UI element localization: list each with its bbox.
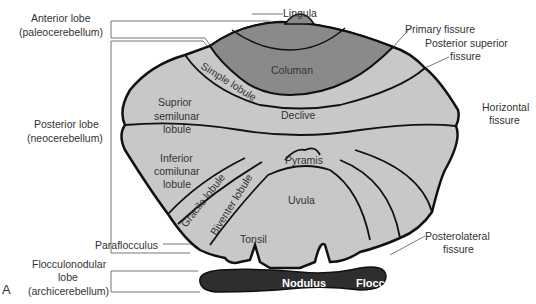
label-superior-semilunar-2: semilunar	[154, 110, 200, 122]
label-flocculonodular: Flocculonodular	[32, 258, 107, 270]
label-paraflocculus: Paraflocculus	[95, 239, 158, 251]
label-posterior-lobe: Posterior lobe	[34, 118, 99, 130]
label-superior-semilunar-3: lobule	[163, 123, 191, 135]
label-tonsil: Tonsil	[240, 233, 267, 245]
label-columan: Columan	[271, 64, 313, 76]
label-uvula: Uvula	[288, 194, 315, 206]
label-neocerebellum: (neocerebellum)	[27, 132, 103, 144]
label-horizontal-fissure-2: fissure	[489, 114, 520, 126]
label-superior-semilunar-1: Suprior	[158, 96, 192, 108]
label-primary-fissure: Primary fissure	[405, 23, 475, 35]
label-lingula: Lingula	[283, 7, 317, 19]
label-paleocerebellum: (paleocerebellum)	[19, 26, 103, 38]
label-archicerebellum: (archicerebellum)	[28, 285, 109, 297]
label-posterior-superior-fissure-2: fissure	[450, 50, 481, 62]
label-anterior-lobe: Anterior lobe	[31, 12, 91, 24]
label-inferior-semilunar-1: Inferior	[160, 152, 193, 164]
label-flocculus: Flocculus	[356, 277, 407, 289]
figure-letter: A	[2, 282, 11, 297]
label-inferior-semilunar-3: lobule	[163, 178, 191, 190]
label-posterolateral-fissure-2: fissure	[443, 243, 474, 255]
label-inferior-semilunar-2: comilunar	[154, 165, 200, 177]
label-nodulus: Nodulus	[282, 277, 326, 289]
label-pyramis: Pyramis	[285, 154, 323, 166]
cerebellum-diagram: Columan Declive Simple lobule Suprior se…	[0, 0, 536, 304]
label-posterolateral-fissure-1: Posterolateral	[425, 230, 490, 242]
label-declive: Declive	[281, 109, 316, 121]
label-horizontal-fissure-1: Horizontal	[482, 101, 529, 113]
label-flocculonodular-lobe: lobe	[58, 271, 78, 283]
label-posterior-superior-fissure-1: Posterior superior	[425, 37, 508, 49]
